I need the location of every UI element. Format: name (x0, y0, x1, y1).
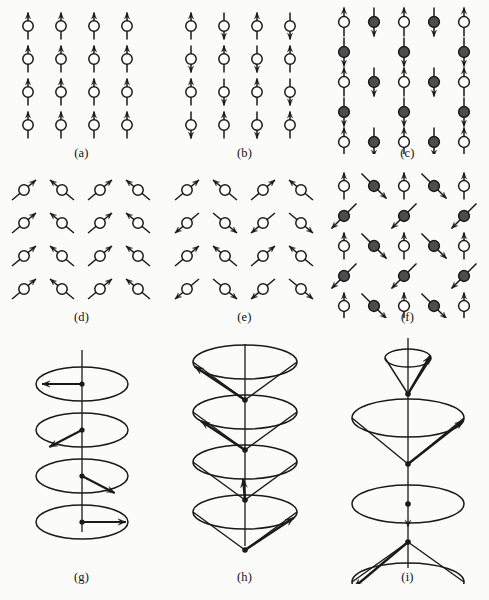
cone-apex-dot (242, 397, 248, 403)
lattice-site (421, 173, 446, 198)
spin-site-circle (339, 181, 350, 192)
spin-site-circle (399, 181, 410, 192)
lattice-site (175, 246, 199, 266)
lattice-site (88, 180, 112, 200)
lattice-site (252, 12, 262, 39)
lattice-site (399, 7, 410, 36)
caption-f: (f) (326, 310, 489, 325)
lattice-site (213, 246, 237, 266)
spin-site-circle (399, 211, 410, 222)
lattice-site (219, 111, 229, 138)
lattice-site (88, 279, 112, 299)
cone-apex-dot (405, 539, 411, 545)
lattice-site (339, 97, 350, 126)
lattice-site (251, 279, 275, 299)
spin-site-circle (399, 47, 410, 58)
spin-site-circle (339, 211, 350, 222)
spin-site-circle (296, 284, 306, 294)
cone-apex-dot (405, 501, 411, 507)
panel-g-canvas (0, 336, 163, 576)
lattice-site (126, 180, 150, 200)
spin-site-circle (182, 185, 192, 195)
spin-site-circle (369, 181, 380, 192)
lattice-site (186, 45, 196, 72)
spin-site-circle (285, 21, 295, 31)
spin-site-circle (296, 218, 306, 228)
lattice-site (391, 203, 416, 228)
spin-site-circle (23, 120, 33, 130)
panel-a-canvas (0, 4, 163, 154)
lattice-site (361, 233, 386, 258)
lattice-site (219, 78, 229, 105)
lattice-site (289, 213, 313, 233)
lattice-site (399, 232, 410, 259)
panel-f-mixed-sublattice (326, 168, 489, 328)
spin-site-circle (89, 87, 99, 97)
spin-site-circle (133, 251, 143, 261)
lattice-site (89, 45, 99, 72)
lattice-site (175, 213, 199, 233)
cone-apex-dot (405, 391, 411, 397)
cone-apex-dot (405, 461, 411, 467)
lattice-site (252, 111, 262, 138)
spin-site-circle (459, 47, 470, 58)
lattice-site (399, 37, 410, 66)
spin-site-circle (258, 185, 268, 195)
spin-site-circle (182, 284, 192, 294)
lattice-site (50, 279, 74, 299)
spin-site-circle (399, 77, 410, 88)
spin-site-circle (220, 185, 230, 195)
spin-site-circle (339, 107, 350, 118)
lattice-site (12, 279, 36, 299)
spin-site-circle (220, 218, 230, 228)
lattice-site (399, 97, 410, 126)
spin-site-circle (339, 77, 350, 88)
spin-site-circle (339, 241, 350, 252)
spin-site-circle (258, 284, 268, 294)
spin-site-circle (89, 54, 99, 64)
lattice-site (451, 263, 476, 288)
lattice-site (213, 180, 237, 200)
lattice-site (186, 111, 196, 138)
spin-site-circle (285, 54, 295, 64)
spin-site-circle (89, 120, 99, 130)
lattice-site (88, 246, 112, 266)
lattice-site (175, 279, 199, 299)
lattice-site (23, 12, 33, 39)
spin-site-circle (186, 54, 196, 64)
moment-vector (49, 430, 82, 447)
spin-site-circle (95, 218, 105, 228)
spin-site-circle (57, 284, 67, 294)
spin-site-circle (19, 218, 29, 228)
panel-d-canvas (0, 168, 163, 318)
lattice-site (186, 12, 196, 39)
moment-origin-dot (79, 427, 84, 432)
spin-site-circle (459, 17, 470, 28)
lattice-site (289, 279, 313, 299)
lattice-site (252, 45, 262, 72)
cone-apex-dot (242, 447, 248, 453)
lattice-site (451, 203, 476, 228)
spin-site-circle (122, 54, 132, 64)
spin-site-circle (369, 17, 380, 28)
lattice-site (89, 78, 99, 105)
lattice-site (339, 37, 350, 66)
spin-site-circle (219, 21, 229, 31)
lattice-site (122, 111, 132, 138)
moment-vector (408, 421, 463, 464)
spin-site-circle (459, 241, 470, 252)
spin-site-circle (56, 120, 66, 130)
lattice-site (391, 263, 416, 288)
lattice-site (331, 263, 356, 288)
spin-site-circle (220, 251, 230, 261)
panel-f-canvas (326, 168, 489, 318)
spin-site-circle (186, 21, 196, 31)
lattice-site (56, 45, 66, 72)
lattice-site (126, 279, 150, 299)
lattice-site (23, 45, 33, 72)
lattice-site (89, 12, 99, 39)
spin-site-circle (369, 77, 380, 88)
cone-side-left (385, 358, 408, 394)
lattice-site (56, 78, 66, 105)
spin-site-circle (429, 17, 440, 28)
